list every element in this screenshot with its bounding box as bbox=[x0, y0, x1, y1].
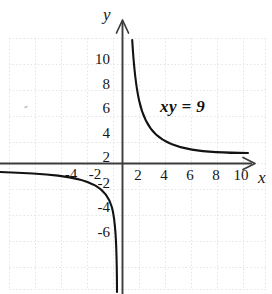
equation-annotation: xy = 9 bbox=[160, 98, 205, 115]
coordinate-plane bbox=[0, 0, 272, 294]
x-tick-label-8: 8 bbox=[209, 168, 223, 183]
y-tick-label-neg4: -4 bbox=[82, 200, 110, 215]
y-tick-label-8: 8 bbox=[86, 77, 110, 92]
y-tick-label-10: 10 bbox=[86, 52, 110, 67]
x-tick-label-6: 6 bbox=[183, 168, 197, 183]
x-tick-label-10: 10 bbox=[230, 168, 252, 183]
y-axis-name: y bbox=[103, 6, 111, 23]
y-tick-label-6: 6 bbox=[86, 101, 110, 116]
y-tick-label-2: 2 bbox=[86, 150, 110, 165]
x-axis-name: x bbox=[258, 169, 266, 186]
y-tick-label-neg6: -6 bbox=[82, 225, 110, 240]
x-tick-label-neg2: -2 bbox=[84, 167, 106, 182]
graph-figure: 10 8 6 4 2 -2 -4 -6 -4 -2 2 4 6 8 10 y x… bbox=[0, 0, 272, 294]
x-tick-label-neg4: -4 bbox=[60, 167, 82, 182]
x-tick-label-4: 4 bbox=[157, 168, 171, 183]
x-tick-label-2: 2 bbox=[131, 168, 145, 183]
y-axis bbox=[117, 20, 129, 294]
y-tick-label-4: 4 bbox=[86, 126, 110, 141]
